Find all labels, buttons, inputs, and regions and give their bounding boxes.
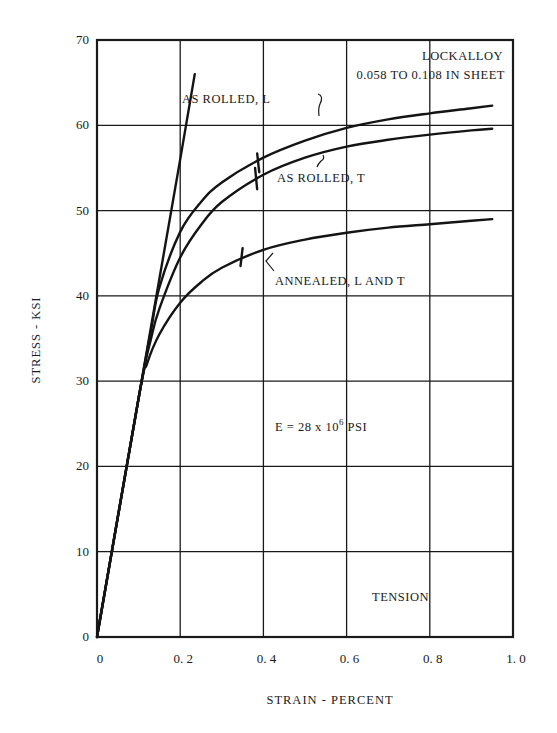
x-tick-label: 1. 0 (506, 651, 526, 666)
y-tick-label: 50 (76, 203, 89, 218)
curves (97, 74, 492, 637)
leader-as-rolled-t (317, 155, 324, 167)
x-tick-label: 0. 2 (173, 651, 193, 666)
label-modulus: E = 28 x 106 PSI (275, 417, 367, 434)
curve-tick-mark (255, 168, 257, 189)
curve-as-rolled-l (97, 106, 492, 637)
y-axis-ticks: 010203040506070 (76, 32, 89, 644)
curve-as-rolled-t (97, 129, 492, 637)
x-axis-title: STRAIN - PERCENT (266, 693, 393, 707)
modulus-base: E = 28 x 10 (275, 420, 339, 434)
leader-as-rolled-l (318, 94, 322, 116)
stress-strain-chart: 010203040506070 00. 20. 40. 60. 81. 0 LO… (0, 0, 557, 733)
label-annealed: ANNEALED, L AND T (275, 274, 405, 288)
chart-subtitle: 0.058 TO 0.108 IN SHEET (356, 68, 505, 82)
x-tick-label: 0 (97, 651, 104, 666)
curve-tick-mark (241, 248, 243, 266)
y-tick-label: 30 (76, 373, 89, 388)
y-tick-label: 20 (76, 458, 89, 473)
label-as-rolled-t: AS ROLLED, T (277, 171, 365, 185)
y-tick-label: 0 (83, 629, 90, 644)
x-tick-label: 0. 8 (423, 651, 443, 666)
curve-tick-mark (257, 153, 259, 172)
y-tick-label: 70 (76, 32, 89, 47)
plot-frame (97, 40, 513, 637)
x-tick-label: 0. 4 (257, 651, 277, 666)
x-tick-label: 0. 6 (340, 651, 360, 666)
x-axis-ticks: 00. 20. 40. 60. 81. 0 (97, 651, 526, 666)
chart-title: LOCKALLOY (422, 49, 503, 63)
label-tension: TENSION (372, 590, 429, 604)
y-tick-label: 40 (76, 288, 89, 303)
leader-annealed (266, 253, 274, 271)
grid-lines (97, 40, 513, 637)
y-axis-title: STRESS - KSI (29, 296, 43, 383)
y-tick-label: 60 (76, 117, 89, 132)
y-tick-label: 10 (76, 544, 89, 559)
label-as-rolled-l: AS ROLLED, L (182, 92, 270, 106)
